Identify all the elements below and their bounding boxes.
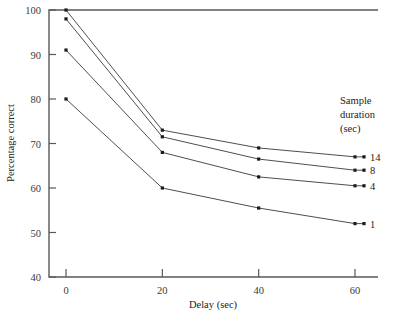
y-tick-label-60: 60 [31,183,42,194]
data-point-1-20 [161,186,164,189]
y-axis-title: Percentage correct [5,104,16,182]
data-point-14-40 [257,146,260,149]
data-point-8-40 [257,157,260,160]
legend-title-line-2: duration [340,109,376,120]
x-axis-ticks [66,269,355,277]
legend-title-line-3: (sec) [340,123,361,135]
data-point-4-0 [64,48,67,51]
x-axis-title: Delay (sec) [189,299,238,311]
series-line-14 [66,10,355,157]
y-tick-label-80: 80 [31,94,42,105]
legend-label-1: 1 [370,219,375,230]
x-axis-tick-labels: 0204060 [63,285,360,296]
y-tick-label-70: 70 [31,139,42,150]
chart-svg: 405060708090100 0204060 14841 Delay (sec… [0,0,396,322]
legend-label-14: 14 [370,152,381,163]
legend-title-line-1: Sample [340,95,372,106]
data-point-1-40 [257,206,260,209]
legend-marker-8 [362,169,365,172]
y-tick-label-40: 40 [31,272,42,283]
series-line-8 [66,19,355,170]
legend-label-8: 8 [370,165,375,176]
data-point-4-20 [161,151,164,154]
y-tick-label-50: 50 [31,228,42,239]
data-point-1-0 [64,97,67,100]
x-tick-label-60: 60 [350,285,361,296]
legend-marker-14 [362,155,365,158]
y-axis-tick-labels: 405060708090100 [25,5,41,283]
x-tick-label-40: 40 [253,285,264,296]
chart-figure: 405060708090100 0204060 14841 Delay (sec… [0,0,396,322]
data-series-group [64,8,356,225]
data-point-14-0 [64,8,67,11]
x-tick-label-0: 0 [63,285,68,296]
legend-keys: 14841 [370,152,381,230]
legend-connector-group [355,155,366,225]
legend-marker-1 [362,222,365,225]
data-point-4-40 [257,175,260,178]
y-tick-label-90: 90 [31,50,42,61]
data-point-8-0 [64,17,67,20]
series-line-1 [66,99,355,224]
y-tick-label-100: 100 [25,5,41,16]
legend-label-4: 4 [370,181,376,192]
data-point-14-20 [161,129,164,132]
y-axis-ticks [49,10,56,277]
x-tick-label-20: 20 [157,285,168,296]
data-point-8-20 [161,135,164,138]
legend-marker-4 [362,184,365,187]
